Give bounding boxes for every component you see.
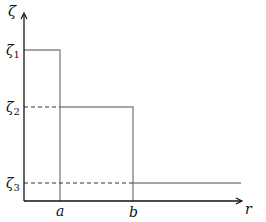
x-axis-label: r — [245, 201, 253, 217]
level-label-zeta2: ζ2 — [6, 99, 20, 117]
step-function-line — [24, 50, 241, 201]
level-subscript: 1 — [14, 49, 20, 60]
y-axis-label: ζ — [8, 2, 17, 20]
level-subscript: 3 — [14, 182, 20, 193]
level-label-zeta3: ζ3 — [6, 175, 20, 193]
step-function-diagram: ζ r ζ1 ζ2 ζ3 a b — [0, 0, 266, 222]
level-subscript: 2 — [14, 106, 20, 117]
level-label-zeta1: ζ1 — [6, 42, 20, 60]
x-tick-label-b: b — [129, 204, 138, 220]
x-tick-label-a: a — [56, 203, 64, 219]
